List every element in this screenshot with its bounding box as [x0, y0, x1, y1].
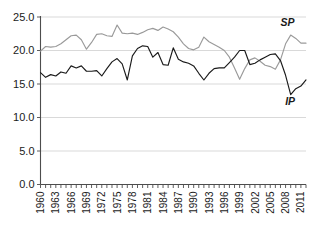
x-tick-label: 2008 [280, 191, 291, 214]
series-annotation-sp: SP [281, 16, 296, 28]
x-tick-label: 1963 [50, 191, 61, 214]
x-axis-tick-labels: 1960196319661969197219751978198119841987… [35, 191, 306, 214]
x-tick-label: 1999 [234, 191, 245, 214]
x-tick-label: 1996 [219, 191, 230, 214]
x-tick-label: 1975 [112, 191, 123, 214]
series-line-ip [41, 46, 307, 95]
x-tick-label: 1960 [35, 191, 46, 214]
x-tick-label: 1978 [127, 191, 138, 214]
line-chart: 25.020.015.010.05.00.0 19601963196619691… [0, 0, 324, 230]
x-tick-label: 2011 [295, 191, 306, 213]
y-tick-label: 25.0 [13, 11, 34, 23]
y-tick-label: 0.0 [19, 178, 34, 190]
x-tick-label: 1969 [81, 191, 92, 214]
chart-canvas: 25.020.015.010.05.00.0 19601963196619691… [0, 0, 324, 230]
series-annotation-ip: IP [285, 95, 296, 107]
x-tick-label: 2002 [250, 191, 261, 214]
x-tick-label: 1972 [96, 191, 107, 214]
x-tick-label: 1981 [142, 191, 153, 214]
y-axis-tick-labels: 25.020.015.010.05.00.0 [13, 11, 34, 191]
y-tick-label: 10.0 [13, 111, 34, 123]
y-tick-label: 20.0 [13, 44, 34, 56]
x-tick-label: 1990 [188, 191, 199, 214]
y-tick-label: 15.0 [13, 78, 34, 90]
x-tick-label: 1987 [173, 191, 184, 214]
series-annotations: SPIP [281, 16, 297, 106]
x-tick-label: 1984 [158, 191, 169, 214]
x-tick-label: 1966 [66, 191, 77, 214]
series-line-sp [41, 25, 307, 79]
x-tick-label: 2005 [265, 191, 276, 214]
gridlines [41, 17, 307, 151]
y-tick-label: 5.0 [19, 145, 34, 157]
x-tick-label: 1993 [204, 191, 215, 214]
